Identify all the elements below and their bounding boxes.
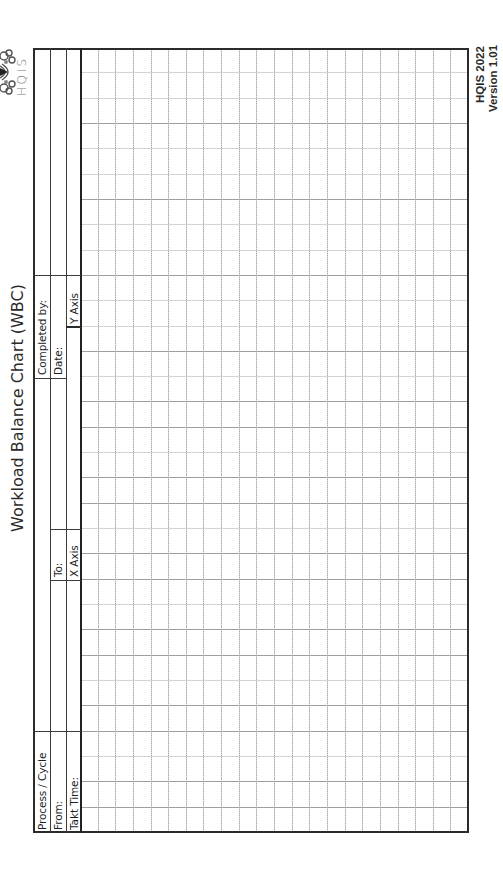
x-axis-label: X Axis bbox=[69, 545, 80, 577]
form-frame bbox=[33, 48, 469, 833]
page-title: Workload Balance Chart (WBC) bbox=[10, 284, 26, 532]
knot-flower-logo-icon bbox=[0, 48, 16, 96]
version-block: HQIS 2022 Version 1.01 bbox=[474, 46, 502, 116]
to-field[interactable] bbox=[51, 378, 66, 528]
date-field[interactable] bbox=[51, 49, 66, 274]
footer-year: HQIS 2022 bbox=[475, 46, 487, 103]
header-grid-divider bbox=[80, 48, 82, 833]
header-row-divider-top bbox=[33, 275, 81, 276]
process-cycle-field[interactable] bbox=[34, 378, 50, 730]
to-xaxis-top-divider bbox=[50, 529, 81, 530]
x-axis-field[interactable] bbox=[67, 328, 80, 528]
hqis-logo: HQIS bbox=[0, 48, 30, 98]
y-axis-label: Y Axis bbox=[69, 293, 80, 324]
footer-version: Version 1.01 bbox=[488, 45, 500, 112]
logo-text: HQIS bbox=[16, 56, 28, 96]
completed-by-field[interactable] bbox=[34, 49, 50, 274]
takt-time-label: Takt Time: bbox=[69, 777, 80, 830]
date-label: Date: bbox=[53, 347, 64, 375]
header-row-divider-labels bbox=[33, 731, 81, 732]
to-label: To: bbox=[53, 563, 64, 577]
process-cycle-label: Process / Cycle bbox=[37, 753, 48, 830]
y-axis-field[interactable] bbox=[67, 49, 80, 274]
takt-time-field[interactable] bbox=[67, 581, 80, 730]
from-label: From: bbox=[53, 801, 64, 830]
completed-by-label: Completed by: bbox=[37, 300, 48, 375]
from-field[interactable] bbox=[51, 581, 66, 730]
